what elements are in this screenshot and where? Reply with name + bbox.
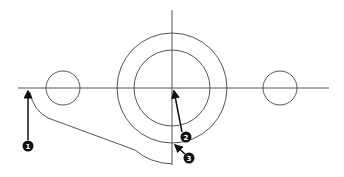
callout-2: 2 [181,132,192,143]
callout-3: 3 [184,153,195,164]
profile-outline [30,92,172,164]
callout-3-number: 3 [187,155,192,163]
callout-1: 1 [23,141,34,152]
callout-2-number: 2 [184,134,189,142]
technical-drawing: 1 2 3 [0,0,344,177]
callout-3-arrow [175,145,185,154]
callout-1-number: 1 [26,143,31,151]
diagram-canvas: 1 2 3 [0,0,344,177]
